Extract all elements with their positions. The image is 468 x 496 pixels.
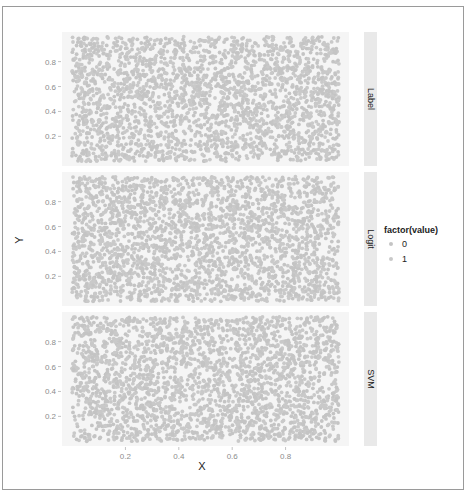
x-tick-label: 0.6 [227, 452, 239, 461]
x-tick-label: 0.2 [120, 452, 132, 461]
facet-panels: 0.20.40.60.8Label0.20.40.60.8Logit0.20.4… [45, 32, 377, 446]
legend-entry-0: 0 [389, 239, 407, 249]
x-axis: 0.20.40.60.8 [120, 447, 292, 461]
facet-strip-svm: SVM [364, 312, 377, 446]
facet-panel-svm: 0.20.40.60.8SVM [45, 312, 377, 446]
strip-label: SVM [366, 369, 376, 389]
legend: factor(value) 0 1 [384, 225, 438, 264]
facet-panel-logit: 0.20.40.60.8Logit [45, 172, 377, 306]
faceted-scatter-chart: 0.20.40.60.8Label0.20.40.60.8Logit0.20.4… [0, 0, 468, 496]
y-tick-label: 0.2 [45, 132, 57, 141]
legend-label-0: 0 [402, 239, 407, 249]
y-tick-label: 0.2 [45, 272, 57, 281]
y-tick-label: 0.4 [45, 387, 57, 396]
facet-strip-label: Label [364, 32, 377, 166]
legend-key-1-icon [389, 257, 393, 261]
y-tick-label: 0.8 [45, 198, 57, 207]
legend-title: factor(value) [384, 225, 438, 235]
strip-label: Logit [366, 229, 376, 249]
y-tick-label: 0.4 [45, 247, 57, 256]
x-axis-title: X [198, 460, 206, 472]
y-tick-label: 0.6 [45, 223, 57, 232]
y-tick-label: 0.6 [45, 363, 57, 372]
x-tick-label: 0.4 [173, 452, 185, 461]
y-tick-label: 0.4 [45, 107, 57, 116]
y-tick-label: 0.8 [45, 338, 57, 347]
y-tick-label: 0.6 [45, 83, 57, 92]
legend-key-0-icon [389, 242, 393, 246]
strip-label: Label [366, 88, 376, 110]
legend-entry-1: 1 [389, 254, 407, 264]
x-tick-label: 0.8 [280, 452, 292, 461]
y-tick-label: 0.2 [45, 412, 57, 421]
facet-strip-logit: Logit [364, 172, 377, 306]
legend-label-1: 1 [402, 254, 407, 264]
y-tick-label: 0.8 [45, 58, 57, 67]
y-axis-title: Y [13, 236, 25, 244]
facet-panel-label: 0.20.40.60.8Label [45, 32, 377, 166]
